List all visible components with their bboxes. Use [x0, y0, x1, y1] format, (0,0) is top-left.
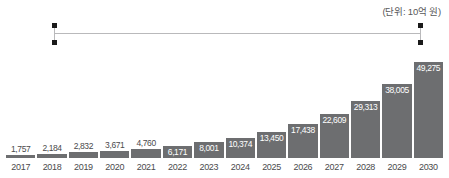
x-tick-label: 2022 [163, 160, 192, 176]
bar-value-label: 4,760 [125, 138, 166, 148]
bar-value-label: 10,374 [226, 139, 255, 149]
bar [37, 154, 66, 158]
bar: 6,171 [163, 146, 192, 158]
bracket-right-tick [420, 25, 421, 42]
bar: 10,374 [226, 138, 255, 158]
bar-value-label: 22,609 [320, 115, 349, 125]
bar-column: 22,609 [320, 62, 349, 158]
x-tick-label: 2021 [131, 160, 160, 176]
x-axis-tick-labels: 2017201820192020202120222023202420252026… [6, 160, 443, 176]
bar: 13,450 [257, 132, 286, 158]
bar-column: 10,374 [226, 62, 255, 158]
x-tick-label: 2019 [69, 160, 98, 176]
bar [6, 155, 35, 158]
plot-area: 1,7572,1842,8323,6714,7606,1718,00110,37… [6, 62, 443, 158]
bar-value-label: 38,005 [382, 85, 411, 95]
bar-column: 13,450 [257, 62, 286, 158]
bar-value-label: 17,438 [288, 125, 317, 135]
x-tick-label: 2023 [194, 160, 223, 176]
bar: 22,609 [320, 114, 349, 158]
x-tick-label: 2030 [414, 160, 443, 176]
bar: 8,001 [194, 142, 223, 158]
bracket-left-tick [54, 25, 55, 42]
bar-value-label: 8,001 [194, 143, 223, 153]
bracket-dot-left-bottom [52, 40, 57, 45]
x-tick-label: 2025 [257, 160, 286, 176]
bar: 49,275 [414, 62, 443, 158]
bar-column: 8,001 [194, 62, 223, 158]
bar-column: 4,760 [131, 62, 160, 158]
bar [131, 149, 160, 158]
x-tick-label: 2028 [351, 160, 380, 176]
bar-column: 6,171 [163, 62, 192, 158]
bar-column: 29,313 [351, 62, 380, 158]
x-tick-label: 2020 [100, 160, 129, 176]
bar-value-label: 49,275 [414, 63, 443, 73]
x-tick-label: 2029 [382, 160, 411, 176]
unit-note: (단위: 10억 원) [382, 4, 441, 18]
bracket-dot-right-bottom [418, 40, 423, 45]
bar: 17,438 [288, 124, 317, 158]
bar-column: 38,005 [382, 62, 411, 158]
bar [69, 152, 98, 158]
x-tick-label: 2018 [37, 160, 66, 176]
bar-value-label: 13,450 [257, 133, 286, 143]
bracket-horizontal-line [54, 33, 420, 34]
bar-column: 49,275 [414, 62, 443, 158]
bar [100, 151, 129, 158]
bar: 38,005 [382, 84, 411, 158]
bracket-dot-right-top [418, 23, 423, 28]
bar-chart: (단위: 10억 원) 1,7572,1842,8323,6714,7606,1… [0, 0, 449, 178]
x-tick-label: 2026 [288, 160, 317, 176]
bar: 29,313 [351, 101, 380, 158]
bar-value-label: 6,171 [163, 147, 192, 157]
x-tick-label: 2017 [6, 160, 35, 176]
x-tick-label: 2027 [320, 160, 349, 176]
bracket-dot-left-top [52, 23, 57, 28]
bar-value-label: 29,313 [351, 102, 380, 112]
bar-column: 17,438 [288, 62, 317, 158]
x-tick-label: 2024 [226, 160, 255, 176]
